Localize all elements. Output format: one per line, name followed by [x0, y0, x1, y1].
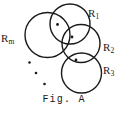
ellipsis-dot-2 [35, 72, 38, 75]
figure-container: Rm R1 R2 R3 Fig. A [0, 0, 128, 113]
ellipsis-dot-1 [28, 61, 31, 64]
label-rm-base: R [1, 32, 8, 44]
label-rm: Rm [1, 33, 14, 46]
circle-r3 [62, 53, 102, 93]
label-rm-subscript: m [9, 37, 15, 46]
lens-dot-rm-r1 [56, 23, 59, 26]
label-r2-base: R [103, 41, 110, 53]
label-r3-base: R [103, 64, 110, 76]
label-r1: R1 [88, 8, 99, 21]
lens-dot-r1-r2 [71, 36, 74, 39]
figure-caption: Fig. A [0, 94, 128, 105]
ellipsis-dot-3 [43, 83, 46, 86]
label-r3: R3 [103, 65, 114, 78]
label-r2: R2 [103, 42, 114, 55]
label-r3-subscript: 3 [111, 69, 115, 78]
lens-dot-r2-r3 [75, 59, 78, 62]
label-r1-subscript: 1 [96, 12, 100, 21]
label-r1-base: R [88, 7, 95, 19]
label-r2-subscript: 2 [111, 46, 115, 55]
